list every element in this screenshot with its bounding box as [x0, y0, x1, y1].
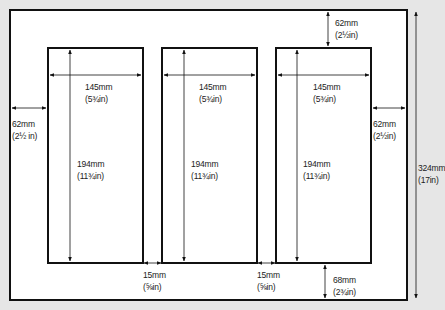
bottom-margin-label: 68mm(2¾in)	[333, 274, 356, 298]
top-margin-label: 62mm(2½in)	[335, 17, 358, 41]
panel-1-width-label: 145mm(5¾in)	[85, 81, 112, 105]
panel-2-width-label: 145mm(5¾in)	[199, 81, 226, 105]
right-margin-label: 62mm(2½in)	[373, 118, 396, 142]
panel-3-height-label: 194mm(11¾in)	[303, 158, 330, 182]
panel-3-width-label: 145mm(5¾in)	[313, 81, 340, 105]
gutter-2-label: 15mm(⅝in)	[257, 269, 280, 293]
gutter-1-label: 15mm(⅝in)	[143, 269, 166, 293]
left-margin-label: 62mm(2½ in)	[12, 118, 37, 142]
panel-2-height-label: 194mm(11¾in)	[191, 158, 218, 182]
panel-1-height-label: 194mm(11¾in)	[77, 158, 104, 182]
sheet-height-label: 324mm(17in)	[418, 162, 445, 186]
